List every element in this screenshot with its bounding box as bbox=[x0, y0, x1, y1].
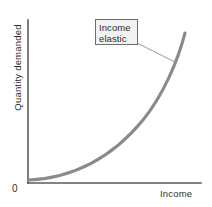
callout-line-2: elastic bbox=[99, 33, 137, 44]
y-axis-title: Quantity demanded bbox=[12, 18, 23, 118]
income-elastic-callout: Income elastic bbox=[95, 19, 138, 45]
income-elasticity-chart: Income elastic Quantity demanded Income … bbox=[0, 0, 212, 207]
callout-leader-line bbox=[137, 43, 175, 62]
origin-label: 0 bbox=[12, 183, 18, 194]
x-axis-title: Income bbox=[160, 188, 192, 199]
callout-line-1: Income bbox=[99, 22, 137, 33]
